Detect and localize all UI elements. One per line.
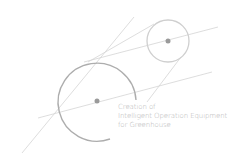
connector-line <box>147 57 181 102</box>
large-center-dot <box>95 99 100 104</box>
upper-axis-line <box>84 27 218 62</box>
diagonal-line <box>22 17 134 153</box>
small-center-dot <box>166 39 171 44</box>
geometric-emblem-icon <box>0 0 252 165</box>
logo-graphic: Creation of Intelligent Operation Equipm… <box>0 0 252 165</box>
caption: Creation of Intelligent Operation Equipm… <box>118 103 227 130</box>
tangent-line <box>88 24 154 62</box>
caption-line-2: Intelligent Operation Equipment <box>118 112 227 121</box>
caption-line-3: for Greenhouse <box>118 121 227 130</box>
caption-line-1: Creation of <box>118 103 227 112</box>
